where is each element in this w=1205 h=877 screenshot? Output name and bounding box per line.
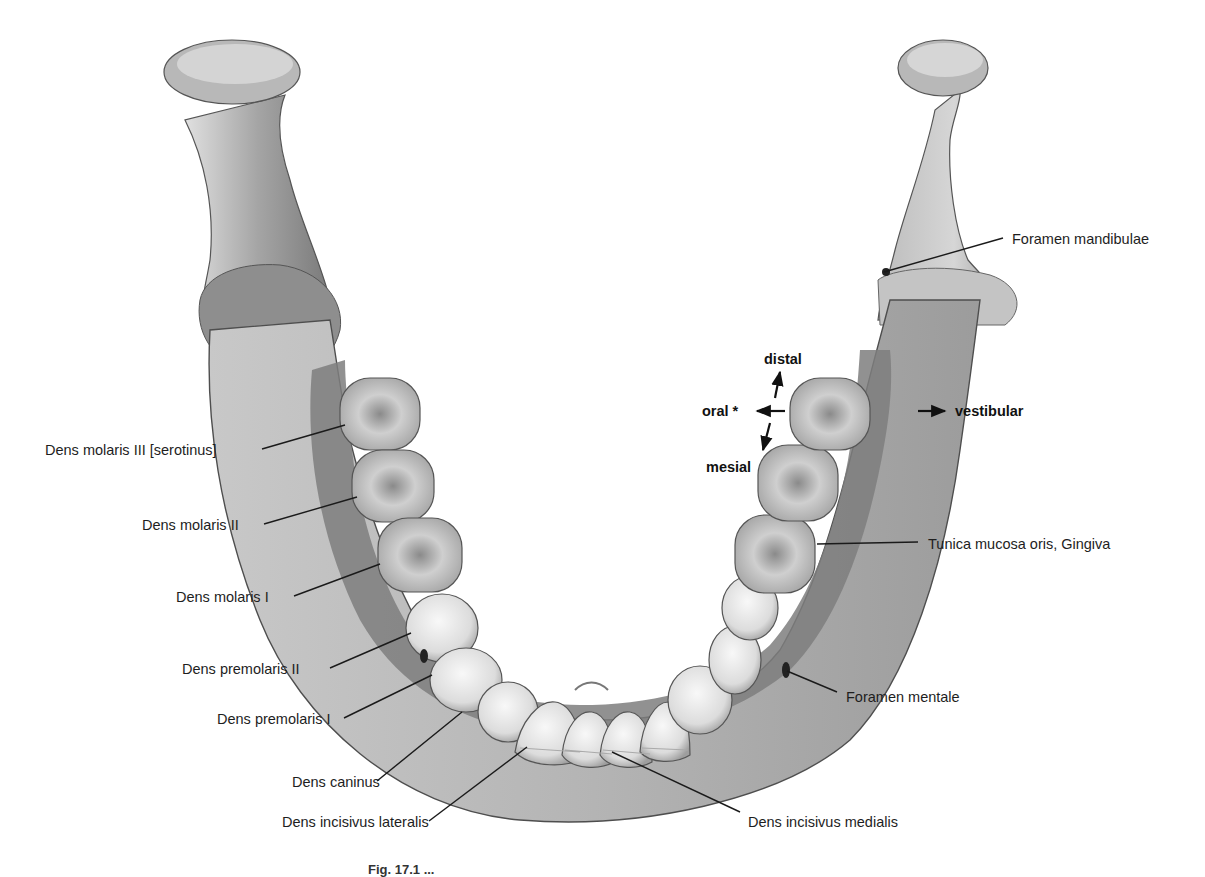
direction-mesial: mesial <box>706 460 751 475</box>
label-foramen-mentale: Foramen mentale <box>846 690 960 705</box>
label-dens-premolaris-2: Dens premolaris II <box>182 662 300 677</box>
direction-oral: oral * <box>702 404 738 419</box>
right-foramen-mentale <box>782 662 790 678</box>
label-dens-incisivus-lateralis: Dens incisivus lateralis <box>282 815 429 830</box>
left-foramen-mentale <box>420 649 428 663</box>
label-dens-caninus: Dens caninus <box>292 775 380 790</box>
label-dens-molaris-3: Dens molaris III [serotinus] <box>45 443 217 458</box>
left-molar-2 <box>352 450 434 522</box>
label-dens-incisivus-medialis: Dens incisivus medialis <box>748 815 898 830</box>
label-dens-molaris-2: Dens molaris II <box>142 518 239 533</box>
right-ramus <box>878 40 1017 325</box>
right-molar-3 <box>790 378 870 450</box>
right-molar-1 <box>735 515 815 593</box>
label-gingiva: Tunica mucosa oris, Gingiva <box>928 537 1110 552</box>
label-foramen-mandibulae: Foramen mandibulae <box>1012 232 1149 247</box>
direction-vestibular: vestibular <box>955 404 1024 419</box>
direction-distal: distal <box>764 352 802 367</box>
figure-caption: Fig. 17.1 ... <box>368 862 434 877</box>
left-molar-1 <box>378 518 462 592</box>
label-dens-molaris-1: Dens molaris I <box>176 590 269 605</box>
label-dens-premolaris-1: Dens premolaris I <box>217 712 331 727</box>
right-molar-2 <box>758 445 838 521</box>
left-molar-3 <box>340 378 420 450</box>
